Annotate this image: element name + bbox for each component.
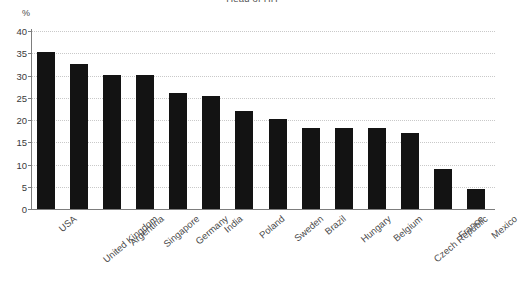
y-axis-tick-label: 15: [3, 137, 27, 148]
gridline: [31, 98, 495, 99]
y-axis-unit-label: %: [22, 8, 30, 18]
x-axis-tick-label: USA: [56, 213, 78, 234]
y-axis-line: [31, 29, 32, 210]
y-axis-tick-label: 0: [3, 204, 27, 215]
bar[interactable]: [70, 64, 88, 210]
y-axis-tick-label: 30: [3, 70, 27, 81]
gridline: [31, 187, 495, 188]
gridline: [31, 31, 495, 32]
gridline: [31, 53, 495, 54]
gridline: [31, 120, 495, 121]
y-axis-tick-label: 20: [3, 115, 27, 126]
x-axis-tick-label: Poland: [257, 213, 287, 240]
bar[interactable]: [335, 128, 353, 209]
bar[interactable]: [202, 96, 220, 209]
bar[interactable]: [368, 128, 386, 209]
chart-title: Head of HH: [0, 0, 504, 4]
plot-area: 0510152025303540: [31, 31, 495, 209]
x-axis-tick-label: Sweden: [292, 213, 325, 244]
gridline: [31, 76, 495, 77]
x-axis-tick-label: Brazil: [322, 213, 347, 237]
bar[interactable]: [434, 169, 452, 209]
x-axis-tick-label: Belgium: [391, 213, 424, 243]
y-axis-tick-label: 10: [3, 159, 27, 170]
bar[interactable]: [302, 128, 320, 209]
bar[interactable]: [401, 133, 419, 209]
gridline: [31, 165, 495, 166]
bar[interactable]: [269, 119, 287, 209]
x-axis-tick-label: Singapore: [161, 213, 201, 249]
bar[interactable]: [235, 111, 253, 209]
bar[interactable]: [169, 93, 187, 209]
x-axis-tick-label: Mexico: [489, 213, 519, 241]
y-axis-tick-label: 5: [3, 181, 27, 192]
x-axis-labels: USAUnited KingdomArgentinaSingaporeGerma…: [31, 210, 495, 288]
bar[interactable]: [37, 52, 55, 209]
bar[interactable]: [136, 75, 154, 209]
bar[interactable]: [467, 189, 485, 209]
x-axis-tick-label: Hungary: [358, 213, 393, 245]
bar[interactable]: [103, 75, 121, 209]
y-axis-tick-label: 25: [3, 92, 27, 103]
y-axis-tick-label: 40: [3, 26, 27, 37]
gridline: [31, 142, 495, 143]
y-axis-tick-label: 35: [3, 48, 27, 59]
